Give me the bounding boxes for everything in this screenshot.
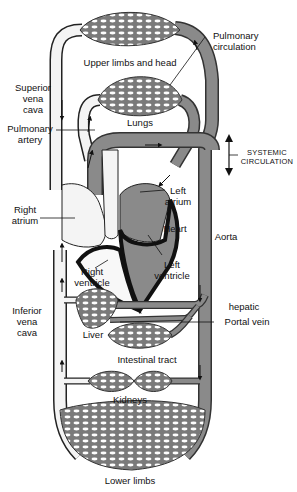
intestinal-capillary-bed [108, 323, 172, 348]
upper-limbs-capillary-bed [80, 12, 180, 45]
label-pulmonary-artery: Pulmonary artery [4, 123, 56, 145]
label-right-ventricle: Right ventricle [72, 266, 112, 288]
label-upper-limbs-head: Upper limbs and head [78, 57, 182, 68]
systemic-circulation-double-arrow-icon [225, 134, 238, 176]
label-inferior-vena-cava: Inferior vena cava [8, 305, 46, 338]
label-left-atrium: Left atrium [163, 185, 193, 207]
label-heart: Heart [160, 223, 190, 234]
pulmonary-trunk [102, 150, 118, 239]
circulation-svg [0, 0, 297, 492]
label-portal-vein: Portal vein [219, 316, 275, 327]
label-aorta: Aorta [211, 231, 241, 242]
label-lower-limbs: Lower limbs [100, 475, 160, 486]
lower-limbs-capillary-bed [60, 401, 205, 470]
label-superior-vena-cava: Superior vena cava [14, 82, 52, 115]
label-systemic-circulation: SYSTEMIC CIRCULATION [238, 148, 296, 166]
label-lungs: Lungs [120, 117, 160, 128]
lungs-capillary-bed [98, 77, 182, 116]
label-pulmonary-circulation: Pulmonary circulation [213, 30, 258, 52]
label-hepatic: hepatic [225, 301, 263, 312]
label-kidneys: Kidneys [110, 394, 150, 405]
circulatory-diagram: Pulmonary circulation Upper limbs and he… [0, 0, 297, 492]
label-right-atrium: Right atrium [10, 204, 40, 226]
label-intestinal-tract: Intestinal tract [112, 354, 182, 365]
aorta-vessel [175, 28, 212, 455]
kidneys-capillary-bed [88, 371, 172, 391]
label-liver: Liver [78, 329, 108, 340]
label-left-ventricle: Left ventricle [152, 259, 192, 281]
superior-vena-cava-vessel [56, 30, 82, 190]
